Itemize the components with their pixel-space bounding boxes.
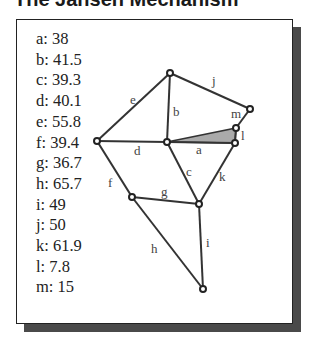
link-e [97, 73, 170, 141]
label-l: l [241, 128, 245, 143]
label-d: d [134, 143, 141, 158]
joint-top [167, 70, 173, 76]
joint-m [247, 106, 253, 112]
joint-center [164, 139, 170, 145]
label-a: a [196, 142, 202, 157]
label-c: c [186, 164, 192, 179]
label-h: h [151, 241, 158, 256]
label-g: g [161, 184, 168, 199]
joint-l-upper [233, 125, 239, 131]
label-b: b [173, 104, 180, 119]
joint-left [94, 138, 100, 144]
link-i [199, 204, 203, 289]
crank-triangle [167, 128, 236, 143]
label-i: i [206, 235, 210, 250]
link-f [97, 141, 132, 197]
link-c [167, 142, 199, 204]
linkage-diagram: e b j m l d a c k f g h i [0, 0, 309, 339]
joint-g-right [196, 201, 202, 207]
link-b [167, 73, 170, 142]
label-j: j [211, 73, 216, 88]
label-e: e [130, 92, 136, 107]
link-h [132, 197, 203, 289]
joint-foot [200, 286, 206, 292]
link-d [97, 141, 167, 142]
joint-g-left [129, 194, 135, 200]
link-j [170, 73, 250, 109]
label-m: m [231, 106, 241, 121]
link-k [199, 143, 235, 204]
label-k: k [219, 169, 226, 184]
label-f: f [108, 175, 113, 190]
joint-l-lower [232, 140, 238, 146]
